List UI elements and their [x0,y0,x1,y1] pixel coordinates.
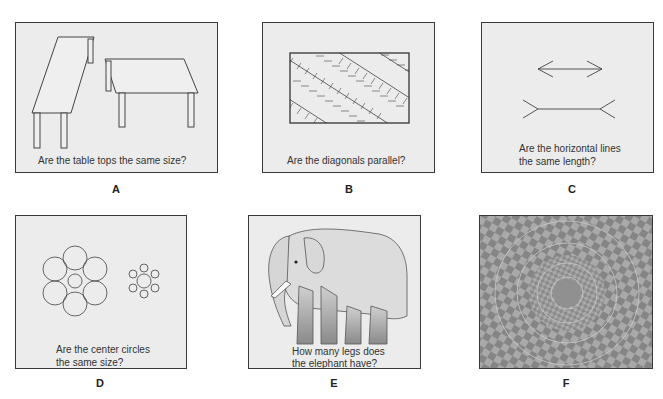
label-d: D [90,377,110,389]
label-b: B [339,183,359,195]
elephant-eye [294,260,297,263]
caption-d-line1: Are the center circles [56,343,150,356]
caption-c-line2: the same length? [519,155,596,168]
label-e: E [324,377,344,389]
panel-e-elephant: How many legs does the elephant have? [248,215,421,369]
panel-b-zollner: Are the diagonals parallel? [262,22,435,173]
caption-a: Are the table tops the same size? [38,154,186,167]
zollner-illustration [263,23,435,173]
label-f: F [556,377,576,389]
panel-a-tables: Are the table tops the same size? [15,22,218,173]
panel-d-ebbinghaus: Are the center circles the same size? [15,215,187,369]
label-c: C [562,183,582,195]
panel-f-fraser-spiral [479,215,653,369]
caption-d-line2: the same size? [56,356,123,369]
fraser-spiral-illustration [480,216,653,369]
caption-e-line2: the elephant have? [292,357,377,369]
tables-illustration [16,23,218,173]
panel-c-muller-lyer: Are the horizontal lines the same length… [481,22,654,173]
caption-b: Are the diagonals parallel? [287,154,405,167]
label-a: A [106,183,126,195]
caption-c-line1: Are the horizontal lines [519,142,621,155]
